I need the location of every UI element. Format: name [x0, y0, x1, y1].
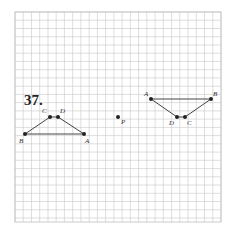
point-center-P [116, 115, 120, 119]
label-image-B: B [213, 91, 217, 98]
segment-original-BC [25, 117, 50, 134]
label-original-B: B [19, 138, 23, 145]
label-image-C: C [187, 120, 192, 127]
coordinate-grid-diagram [0, 0, 228, 230]
label-image-D: D [169, 120, 174, 127]
point-original-D [56, 115, 60, 119]
label-original-C: C [42, 108, 47, 115]
label-center-P: P [121, 119, 125, 126]
point-image-A [149, 97, 153, 101]
point-original-B [23, 132, 27, 136]
segment-original-DA [58, 117, 84, 134]
point-original-C [48, 115, 52, 119]
label-original-A: A [85, 138, 89, 145]
point-original-A [82, 132, 86, 136]
segment-image-BC [185, 99, 211, 117]
label-original-D: D [60, 108, 65, 115]
problem-number: 37. [24, 92, 43, 109]
label-image-A: A [144, 91, 148, 98]
point-image-D [175, 115, 179, 119]
